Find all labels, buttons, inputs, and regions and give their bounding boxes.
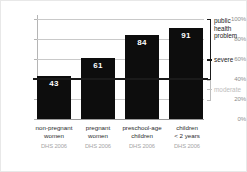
public-health-problem-bracket xyxy=(207,19,211,80)
severity-annotations: public health problem severe moderate xyxy=(204,17,247,122)
plot-area: 43 61 84 91 xyxy=(37,19,204,119)
x-label-line1: children xyxy=(176,124,198,131)
bar-chart-figure: 100% 80% 60% 40% 20% 0% 43 61 84 91 xyxy=(0,0,247,172)
bar-pregnant-women[interactable]: 61 xyxy=(81,58,115,119)
bar-value-label: 61 xyxy=(81,61,115,70)
severe-tick-mark xyxy=(207,59,212,61)
x-label-line1: non-pregnant xyxy=(36,124,73,131)
bar-preschool-age-children[interactable]: 84 xyxy=(125,35,159,119)
moderate-tick-mark xyxy=(207,89,212,90)
bar-non-pregnant-women[interactable]: 43 xyxy=(37,76,71,119)
gridline-100 xyxy=(37,19,204,20)
public-health-problem-label: public health problem xyxy=(214,17,237,40)
reference-line-40-percent xyxy=(33,78,208,80)
bar-value-label: 91 xyxy=(169,31,203,40)
public-health-problem-line2: health xyxy=(214,25,231,32)
severe-label: severe xyxy=(214,56,233,64)
x-label-line1: preschool-age xyxy=(122,124,161,131)
x-label-children-under-2-years: children < 2 years DHS 2006 xyxy=(159,124,215,150)
public-health-problem-line3: problem xyxy=(214,32,237,39)
x-label-line2: children xyxy=(131,132,153,139)
bar-children-under-2-years[interactable]: 91 xyxy=(169,28,203,119)
bar-value-label: 84 xyxy=(125,38,159,47)
bar-value-label: 43 xyxy=(37,79,71,88)
x-label-source: DHS 2006 xyxy=(159,142,215,150)
x-label-line2: < 2 years xyxy=(174,132,200,139)
moderate-bracket xyxy=(207,80,211,101)
x-label-line1: pregnant xyxy=(86,124,110,131)
public-health-problem-line1: public xyxy=(214,17,231,24)
gridline-baseline-0 xyxy=(37,119,204,120)
moderate-label: moderate xyxy=(214,86,241,94)
x-label-line2: women xyxy=(88,132,108,139)
x-label-line2: women xyxy=(44,132,64,139)
